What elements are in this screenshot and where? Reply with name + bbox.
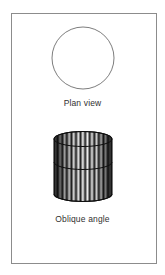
circle-outline-icon <box>48 25 118 91</box>
oblique-angle-drawing <box>0 130 165 208</box>
cylinder-icon <box>52 130 114 206</box>
oblique-angle-panel: Oblique angle <box>0 130 165 230</box>
plan-view-circle <box>52 27 114 89</box>
figure-page: Plan view <box>0 0 165 275</box>
plan-view-caption: Plan view <box>0 98 165 108</box>
plan-view-panel: Plan view <box>0 25 165 115</box>
cylinder-surface <box>52 130 114 206</box>
cylinder-shading <box>52 130 114 206</box>
oblique-angle-caption: Oblique angle <box>0 214 165 224</box>
plan-view-drawing <box>0 25 165 91</box>
